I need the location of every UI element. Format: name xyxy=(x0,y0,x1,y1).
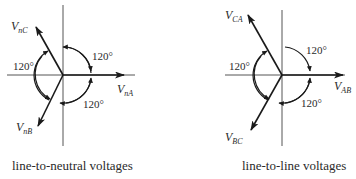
line-to-neutral-diagram: VnC VnA VnB 120° 120° 120° xyxy=(7,5,135,146)
label-vab: VAB xyxy=(334,79,351,95)
label-vnc: VnC xyxy=(11,19,28,35)
caption-line-to-neutral: line-to-neutral voltages xyxy=(12,158,133,174)
label-vna: VnA xyxy=(117,82,133,98)
angle-arc-top-left xyxy=(272,47,310,73)
angle-label-top-right: 120° xyxy=(92,50,113,62)
phasor-diagrams: VnC VnA VnB 120° 120° 120° VCA VAB VBC 1… xyxy=(0,0,356,179)
angle-label-bottom-right: 120° xyxy=(83,98,104,110)
angle-label-left: 120° xyxy=(229,60,250,72)
caption-line-to-line: line-to-line voltages xyxy=(242,158,346,174)
angle-arc-top-right xyxy=(66,47,91,71)
angle-label-top-right: 120° xyxy=(306,44,327,56)
angle-label-left: 120° xyxy=(13,60,34,72)
phasor-vca-arrow xyxy=(248,15,282,75)
angle-arc-left-down xyxy=(35,56,50,99)
angle-arc-left-down xyxy=(254,56,269,99)
angle-label-bottom-right: 120° xyxy=(301,97,322,109)
phasor-vnb-arrow xyxy=(38,75,63,126)
label-vbc: VBC xyxy=(225,130,243,146)
label-vca: VCA xyxy=(225,8,243,24)
label-vnb: VnB xyxy=(16,120,32,136)
line-to-line-diagram: VCA VAB VBC 120° 120° 120° xyxy=(225,8,351,146)
phasor-vnc-arrow xyxy=(36,27,63,75)
